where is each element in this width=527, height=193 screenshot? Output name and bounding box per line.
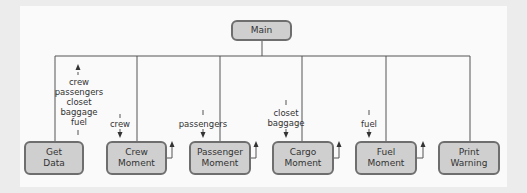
param-fuel-in: fuel bbox=[354, 119, 384, 129]
param-cargo-in: closet baggage bbox=[264, 108, 308, 128]
module-main: Main bbox=[231, 20, 292, 41]
param-get-data-out: crew passengers closet baggage fuel bbox=[53, 77, 105, 127]
module-print-warning: Print Warning bbox=[438, 141, 500, 175]
module-cargo-moment: Cargo Moment bbox=[272, 141, 334, 175]
module-get-data: Get Data bbox=[24, 141, 84, 175]
param-passengers-in: passengers bbox=[171, 119, 235, 129]
module-fuel-moment: Fuel Moment bbox=[355, 141, 417, 175]
param-crew-in: crew bbox=[100, 119, 140, 129]
module-passenger-moment: Passenger Moment bbox=[189, 141, 251, 175]
module-crew-moment: Crew Moment bbox=[106, 141, 167, 175]
